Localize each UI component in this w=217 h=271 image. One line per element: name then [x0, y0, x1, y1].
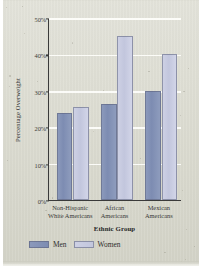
y-tick-mark-20%	[46, 128, 49, 129]
y-axis-title: Percentage Overweight	[14, 78, 21, 142]
y-tick-mark-40%	[46, 55, 49, 56]
legend-item-men[interactable]: Men	[29, 240, 67, 249]
scan-speck	[194, 246, 195, 247]
bar-men-group-1	[57, 113, 73, 200]
bar-women-group-2	[117, 36, 133, 200]
y-tick-label-0%: 0%	[38, 198, 46, 205]
men-color-swatch	[29, 241, 49, 249]
x-category-label-3: MexicanAmericans	[137, 204, 181, 221]
scan-speck	[6, 7, 8, 9]
y-tick-mark-30%	[46, 91, 49, 92]
scan-speck	[7, 160, 8, 161]
chart-legend: Men Women	[29, 240, 189, 249]
bar-men-group-3	[145, 91, 161, 200]
bar-chart: Percentage Overweight 0%10%20%30%40%50% …	[15, 7, 191, 257]
y-tick-label-20%: 20%	[35, 125, 46, 132]
gridline-50%	[49, 18, 181, 20]
scan-speck	[9, 75, 11, 77]
y-tick-label-10%: 10%	[35, 161, 46, 168]
y-tick-mark-10%	[46, 164, 49, 165]
x-category-label-2: AfricanAmericans	[92, 204, 136, 221]
women-color-swatch	[74, 241, 94, 249]
y-tick-mark-50%	[46, 18, 49, 19]
scan-speck	[9, 86, 10, 87]
x-category-label-1: Non-HispanicWhite Americans	[48, 204, 92, 221]
scan-speck	[185, 259, 186, 260]
plot-area: 0%10%20%30%40%50%	[48, 19, 181, 201]
x-axis-title: Ethnic Group	[48, 225, 181, 232]
y-tick-label-40%: 40%	[35, 52, 46, 59]
y-tick-label-30%: 30%	[35, 88, 46, 95]
bar-men-group-2	[101, 104, 117, 200]
y-tick-label-50%: 50%	[35, 16, 46, 23]
bar-women-group-1	[73, 107, 89, 200]
scan-sheet-bottom-edge	[3, 261, 199, 266]
legend-label-women: Women	[98, 240, 121, 249]
y-tick-mark-0%	[46, 200, 49, 201]
bar-women-group-3	[162, 54, 178, 200]
scanned-page: Percentage Overweight 0%10%20%30%40%50% …	[0, 0, 217, 271]
legend-label-men: Men	[53, 240, 67, 249]
legend-item-women[interactable]: Women	[74, 240, 121, 249]
